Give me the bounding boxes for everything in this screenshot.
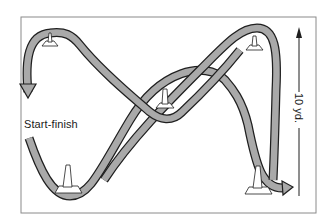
arrow-right-icon xyxy=(282,181,293,195)
start-finish-label: Start-finish xyxy=(24,118,78,130)
arrow-down-icon xyxy=(20,84,36,98)
distance-label: 10 yd. xyxy=(293,93,305,123)
drill-diagram xyxy=(0,0,328,223)
arrow-up-icon xyxy=(296,27,302,38)
cone-bottom-left xyxy=(55,165,82,193)
cone-top-right xyxy=(246,36,263,50)
